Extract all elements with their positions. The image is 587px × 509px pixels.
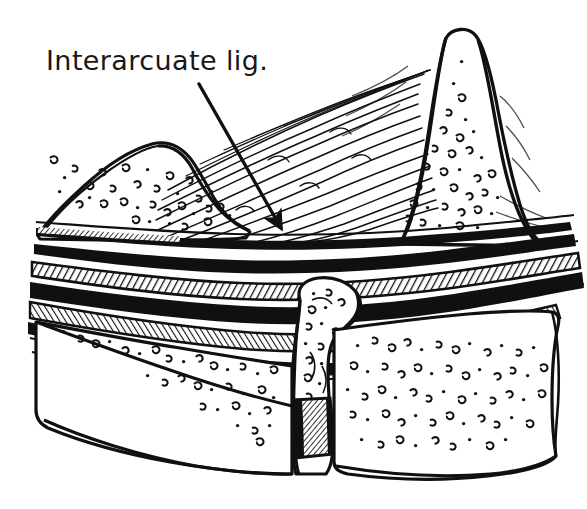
annotation-label-interarcuate-lig: Interarcuate lig. <box>46 47 268 74</box>
lower-right-vertebral-body <box>334 311 559 479</box>
intervertebral-hatched-region <box>292 398 334 458</box>
anatomical-figure: Interarcuate lig. <box>0 0 587 509</box>
anatomy-illustration <box>0 0 587 509</box>
